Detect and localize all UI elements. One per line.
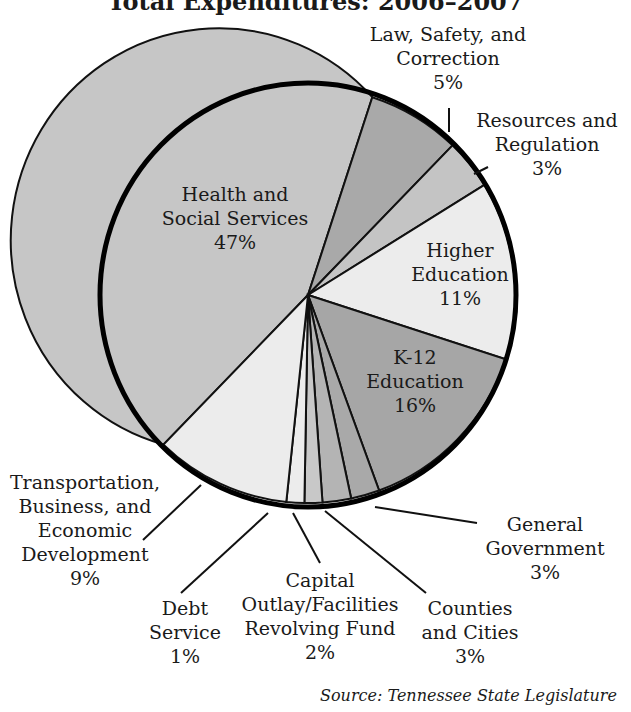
label-debt-service: Debt Service 1% [140,596,230,668]
label-law: Law, Safety, and Correction 5% [358,22,538,94]
label-resources: Resources and Regulation 3% [462,108,631,180]
label-higher-education: Higher Education 11% [400,238,520,310]
leader-line-general [375,507,477,523]
label-k12: K-12 Education 16% [360,345,470,417]
label-transportation: Transportation, Business, and Economic D… [0,470,170,590]
source-note: Source: Tennessee State Legislature [320,686,617,705]
leader-line-capital [293,513,320,563]
label-general-government: General Government 3% [470,512,620,584]
label-health-social-services: Health and Social Services 47% [150,182,320,254]
label-capital-outlay: Capital Outlay/Facilities Revolving Fund… [230,568,410,664]
label-counties-cities: Counties and Cities 3% [415,596,525,668]
